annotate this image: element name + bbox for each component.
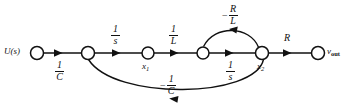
minus-sign: −: [222, 10, 228, 21]
node-u[interactable]: [31, 47, 44, 60]
node-vout[interactable]: [312, 47, 325, 60]
fraction-one-over-C: 1 C: [167, 74, 176, 96]
node-label-x2-subscript: 2: [261, 65, 264, 72]
edge-label-minus-one-over-C: − 1 C: [160, 74, 176, 96]
edge-label-one-over-s-a-denominator: s: [113, 36, 119, 46]
edge-label-one-over-C-numerator: 1: [56, 60, 63, 70]
edge-label-one-over-L-denominator: L: [170, 36, 178, 46]
node-summing-2[interactable]: [197, 47, 209, 59]
edge-label-one-over-s-b-numerator: 1: [227, 60, 234, 70]
feedback-arc-bottom-arrowhead: [169, 96, 178, 103]
edge-label-minus-one-over-C-denominator: C: [167, 86, 176, 96]
signal-flow-graph: U(s) x1 x2 vout 1 C 1 s 1 L 1 s R − R L: [0, 0, 350, 109]
node-label-x1: x1: [142, 62, 149, 72]
edge-label-minus-R-over-L: − R L: [222, 4, 238, 26]
edge-label-one-over-L: 1 L: [169, 24, 178, 46]
node-summing-1[interactable]: [82, 47, 95, 60]
edge-label-one-over-C: 1 C: [55, 60, 64, 82]
edge-label-one-over-C-denominator: C: [55, 72, 64, 82]
edge-label-one-over-s-a: 1 s: [111, 24, 120, 46]
edge-label-one-over-s-b: 1 s: [226, 60, 235, 82]
edge-label-minus-one-over-C-numerator: 1: [168, 74, 175, 84]
edge-label-one-over-s-a-numerator: 1: [112, 24, 119, 34]
feedback-arc-bottom: [89, 60, 264, 90]
minus-sign: −: [160, 80, 166, 91]
edge-label-minus-R-over-L-denominator: L: [229, 16, 237, 26]
fraction-R-over-L: R L: [229, 4, 238, 26]
node-label-x1-subscript: 1: [146, 65, 149, 72]
edge-label-minus-R-over-L-numerator: R: [229, 4, 237, 14]
node-label-u: U(s): [4, 47, 20, 56]
feedback-arc-top: [204, 30, 259, 47]
edge-label-one-over-L-numerator: 1: [170, 24, 177, 34]
edge-label-one-over-s-b-denominator: s: [228, 72, 234, 82]
node-label-vout-subscript: out: [331, 50, 340, 57]
edge-label-R: R: [284, 33, 290, 43]
node-x2[interactable]: [256, 47, 269, 60]
node-x1[interactable]: [142, 47, 154, 59]
node-label-vout: vout: [327, 47, 340, 57]
node-label-x2: x2: [257, 62, 264, 72]
